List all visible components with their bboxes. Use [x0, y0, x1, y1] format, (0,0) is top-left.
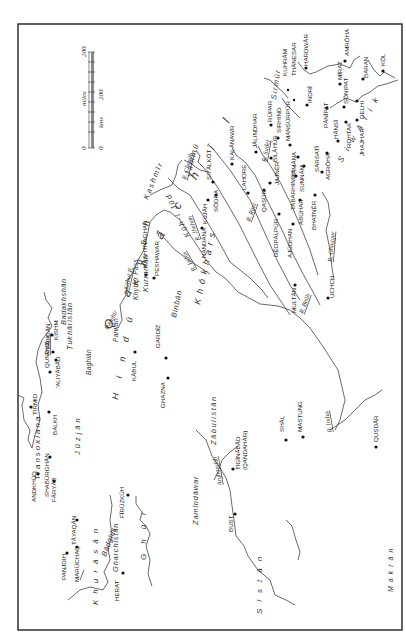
svg-text:'ALIYĀBĀD: 'ALIYĀBĀD: [54, 356, 61, 388]
region-kashmir: Kashmīr: [142, 160, 165, 201]
river-ghaggar: R. Ghaggar: [326, 230, 336, 263]
svg-text:DELHI: DELHI: [358, 100, 365, 119]
svg-text:KŪJĀH: KŪJĀH: [201, 204, 208, 224]
svg-text:QAṢŪR: QAṢŪR: [260, 189, 267, 212]
svg-text:HERAT: HERAT: [113, 580, 120, 601]
svg-text:HASHTNAGHAR: HASHTNAGHAR: [141, 220, 148, 268]
svg-text:PANJDIH: PANJDIH: [60, 554, 67, 580]
town-kabul: KĀBUL: [130, 350, 137, 381]
scale-miles-min: 0: [80, 146, 88, 150]
river-indus-lower: R. Indus: [322, 410, 333, 434]
town-balkh: BALKH: [47, 410, 58, 435]
river-arghandab: Arghandāb: [211, 456, 223, 488]
town-rohtak: ROHTAK: [344, 120, 352, 148]
town-maruchaq: MARŪCHAQ: [73, 545, 80, 582]
svg-text:BHATNĒR: BHATNĒR: [310, 200, 317, 230]
svg-text:QUṢDĀR: QUṢDĀR: [372, 415, 379, 442]
svg-text:BALKH: BALKH: [51, 415, 58, 435]
town-kishm: KISHM: [50, 320, 59, 340]
historical-map: 200 0 miles 200 0 kms: [0, 0, 406, 637]
svg-text:AJŪDHAN: AJŪDHAN: [286, 229, 293, 258]
town-ghazna: GHAZNA: [159, 376, 170, 408]
svg-text:KUHRĀM: KUHRĀM: [281, 49, 288, 76]
region-khurasan: Khurāsān: [91, 523, 100, 605]
town-panjdih: PANJDIH: [60, 551, 69, 580]
river-ravi: R. Rāvī: [244, 201, 258, 223]
svg-text:UCHCH: UCHCH: [328, 276, 335, 298]
town-thanesar: THĀNESAR: [290, 42, 297, 101]
region-khyber-pass: Khyber Pass: [132, 258, 140, 300]
svg-text:DĒOPĀLPŪR: DĒOPĀLPŪR: [272, 218, 279, 257]
town-lahore: LAHORE: [240, 165, 250, 195]
svg-text:NANDANA: NANDANA: [200, 227, 207, 258]
svg-text:BARAN: BARAN: [362, 57, 369, 78]
towns: TIRMID QUNDUZ ṬĀLIQĀN KISHM 'ALIYĀBĀD BA…: [29, 28, 386, 601]
scale-miles-label: miles: [80, 91, 88, 106]
town-tayaqan: TĀYAQĀN: [70, 516, 79, 545]
svg-text:JAJNĒR: JAJNĒR: [273, 161, 280, 185]
town-gardiz: GARDĪZ: [154, 324, 168, 359]
town-sunnam: SUNNĀM: [298, 164, 306, 192]
svg-text:MASTUNG: MASTUNG: [296, 401, 303, 432]
town-hansi: HĀNSĪ: [332, 120, 340, 143]
svg-text:ABŪHAR: ABŪHAR: [297, 199, 304, 225]
svg-text:ANDKHŪD: ANDKHŪD: [30, 471, 37, 502]
town-hardwar: HARDWĀR: [302, 34, 309, 70]
town-jalindhar: JĀLINDHAR: [251, 113, 258, 154]
town-sonipat: SŌNIPAT: [342, 78, 349, 109]
svg-text:GARDĪZ: GARDĪZ: [154, 324, 161, 348]
town-tiginabad: TIGĪNĀBĀD: [231, 436, 241, 470]
scale-bar: 200 0 miles 200 0 kms: [80, 46, 105, 150]
town-shal: SHĀL: [278, 415, 288, 441]
town-kuhram: KUHRĀM: [281, 49, 289, 91]
town-uchch: UCHCH: [326, 276, 335, 300]
svg-text:SARSATĪ: SARSATĪ: [313, 146, 320, 172]
region-binban: Binbān: [169, 289, 184, 318]
svg-text:(QANDAHĀR): (QANDAHĀR): [241, 431, 248, 470]
svg-text:MARŪCHAQ: MARŪCHAQ: [73, 546, 80, 582]
svg-text:AMRŌHA: AMRŌHA: [343, 28, 350, 56]
svg-text:PĀNĪPAT: PĀNĪPAT: [322, 102, 329, 128]
town-qusdar: QUṢDĀR: [372, 415, 379, 449]
svg-text:TABARHINDH: TABARHINDH: [289, 170, 296, 210]
svg-text:KĀBUL: KĀBUL: [130, 360, 137, 381]
scale-kms-max: 200: [97, 89, 105, 100]
town-bhatner: BHATNĒR: [310, 193, 317, 230]
svg-text:TĀYAQĀN: TĀYAQĀN: [70, 516, 77, 545]
town-panipat: PĀNĪPAT: [322, 102, 329, 128]
town-hashtnaghar: HASHTNAGHAR: [141, 220, 148, 277]
svg-text:PESHAWAR: PESHAWAR: [153, 241, 160, 276]
svg-text:AGRŌHA: AGRŌHA: [324, 152, 331, 180]
region-juzjan: Jūzjān: [73, 415, 82, 456]
svg-text:ṬĀLIQĀN: ṬĀLIQĀN: [44, 324, 51, 350]
region-zabulistan: Zābulistān: [209, 395, 218, 446]
svg-text:KŌL: KŌL: [379, 53, 386, 66]
svg-text:SIYĀLKŌT: SIYĀLKŌT: [205, 150, 212, 180]
svg-text:JĀLINDHAR: JĀLINDHAR: [251, 113, 258, 148]
town-andkhud: ANDKHŪD: [30, 471, 40, 502]
town-rupar: RŪPAR: [266, 100, 273, 126]
svg-text:HĀNSĪ: HĀNSĪ: [332, 120, 339, 139]
scale-miles-max: 200: [80, 46, 88, 57]
svg-text:SŌDRA: SŌDRA: [212, 189, 219, 212]
town-multan: MULTĀN: [290, 283, 297, 313]
town-sirhind: SIRHIND: [275, 107, 282, 140]
svg-text:BUST: BUST: [227, 515, 234, 532]
region-baghlan: Baghlān: [85, 349, 93, 375]
svg-text:GHAZNA: GHAZNA: [159, 381, 166, 408]
region-ghur: Ghūr: [139, 502, 148, 560]
svg-text:FĪRŪZKŪH: FĪRŪZKŪH: [118, 487, 125, 518]
town-ajudhan: AJŪDHAN: [286, 222, 295, 258]
svg-text:FĀRYĀB: FĀRYĀB: [50, 477, 57, 502]
town-amroha: AMRŌHA: [343, 28, 350, 63]
town-firuzkuh: FĪRŪZKŪH: [118, 487, 130, 518]
region-transoxiana: Transoxiana: [33, 415, 42, 480]
town-aliyabad: 'ALIYĀBĀD: [54, 356, 61, 388]
town-tirmid: TIRMID: [29, 393, 38, 415]
svg-text:RŪPAR: RŪPAR: [266, 100, 273, 122]
town-sodra: SŌDRA: [212, 189, 219, 212]
svg-text:SUNNĀM: SUNNĀM: [298, 165, 305, 192]
svg-text:SHABŪRGHĀN: SHABŪRGHĀN: [43, 453, 50, 497]
region-tukharistan: Ṭukhāristān: [65, 302, 74, 350]
town-peshawar: PESHAWAR: [152, 241, 160, 280]
